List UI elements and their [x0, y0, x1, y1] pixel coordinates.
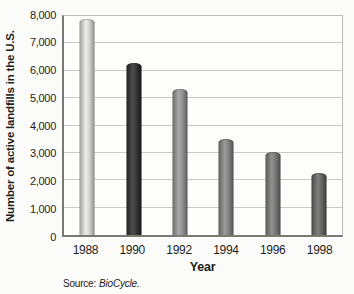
- bar-1994: [219, 139, 234, 235]
- y-tick-7000: 7,000: [0, 36, 56, 49]
- x-tick-1992: 1992: [166, 243, 192, 257]
- x-axis-tick-labels: 198819901992199419961998: [62, 243, 343, 257]
- x-tick-1990: 1990: [120, 243, 146, 257]
- source-prefix: Source:: [63, 278, 96, 289]
- x-tick-1996: 1996: [260, 243, 286, 257]
- gridline-2000: [64, 179, 342, 180]
- plot-area: [62, 15, 343, 237]
- bar-1988: [80, 19, 95, 235]
- bar-1992: [172, 89, 187, 235]
- x-axis-title: Year: [62, 260, 343, 274]
- gridline-4000: [64, 125, 342, 126]
- x-tick-1998: 1998: [307, 243, 333, 257]
- y-tick-6000: 6,000: [0, 64, 56, 77]
- y-tick-3000: 3,000: [0, 147, 56, 160]
- bar-1996: [265, 152, 280, 235]
- y-tick-8000: 8,000: [0, 9, 56, 22]
- gridline-5000: [64, 97, 342, 98]
- gridline-1000: [64, 207, 342, 208]
- gridline-7000: [64, 42, 342, 43]
- landfills-bar-chart: Number of active landfills in the U.S. 0…: [0, 0, 354, 294]
- y-tick-2000: 2,000: [0, 175, 56, 188]
- y-tick-5000: 5,000: [0, 92, 56, 105]
- source-note: Source:BioCycle.: [63, 278, 140, 289]
- x-tick-1994: 1994: [213, 243, 239, 257]
- x-tick-1988: 1988: [73, 243, 99, 257]
- y-tick-4000: 4,000: [0, 120, 56, 133]
- y-axis-tick-labels: 01,0002,0003,0004,0005,0006,0007,0008,00…: [0, 15, 56, 237]
- y-tick-0: 0: [0, 231, 56, 244]
- bar-1998: [311, 173, 326, 235]
- source-name: BioCycle.: [99, 278, 139, 289]
- y-tick-1000: 1,000: [0, 203, 56, 216]
- gridline-3000: [64, 152, 342, 153]
- bar-1990: [126, 63, 141, 235]
- gridline-6000: [64, 70, 342, 71]
